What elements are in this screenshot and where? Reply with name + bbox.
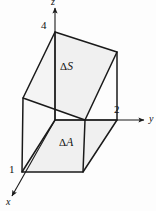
axis-label-z: z <box>51 0 55 7</box>
face-label-delta-a: ΔA <box>59 137 74 149</box>
vertex-label-2: 2 <box>114 104 120 115</box>
symbol-s: S <box>67 60 73 72</box>
figure-canvas: 4 2 1 z y x ΔS ΔA <box>0 0 156 211</box>
face-label-delta-s: ΔS <box>60 61 73 73</box>
edge-vertical-front-left <box>22 98 23 172</box>
diagram-svg <box>0 0 156 211</box>
axis-label-x: x <box>6 197 10 207</box>
vertex-label-1: 1 <box>9 164 15 175</box>
symbol-a: A <box>66 136 73 148</box>
vertex-label-4: 4 <box>41 20 47 31</box>
axis-label-y: y <box>149 114 153 124</box>
